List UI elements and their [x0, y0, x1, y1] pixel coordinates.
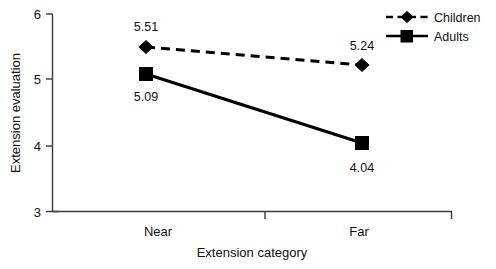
- marker-adults-near: [140, 68, 153, 81]
- series-line-children: [146, 47, 362, 65]
- data-label-adults-far: 4.04: [350, 161, 374, 175]
- legend-marker-diamond-icon: [401, 12, 413, 23]
- y-tick-label-6: 6: [34, 7, 41, 22]
- series-line-adults: [146, 74, 362, 143]
- legend-marker-square-icon: [401, 31, 413, 43]
- x-axis-title: Extension category: [197, 245, 308, 260]
- marker-children-near: [139, 41, 153, 54]
- legend-entry-children: Children: [386, 11, 481, 25]
- y-tick-label-3: 3: [34, 205, 41, 220]
- x-tick-label-far: Far: [349, 224, 369, 239]
- data-label-children-far: 5.24: [350, 39, 374, 53]
- y-tick-label-5: 5: [34, 72, 41, 87]
- legend-label-adults: Adults: [434, 30, 469, 44]
- chart-container: 6 5 4 3 Near Far Extension category Exte…: [0, 0, 496, 269]
- y-tick-label-4: 4: [34, 139, 41, 154]
- data-label-children-near: 5.51: [134, 20, 158, 34]
- marker-children-far: [355, 59, 369, 72]
- legend-label-children: Children: [434, 11, 481, 25]
- legend-entry-adults: Adults: [386, 30, 469, 44]
- y-axis-title: Extension evaluation: [8, 53, 23, 173]
- data-label-adults-near: 5.09: [134, 90, 158, 104]
- x-tick-label-near: Near: [144, 224, 173, 239]
- line-chart: 6 5 4 3 Near Far Extension category Exte…: [0, 0, 496, 269]
- marker-adults-far: [356, 137, 369, 150]
